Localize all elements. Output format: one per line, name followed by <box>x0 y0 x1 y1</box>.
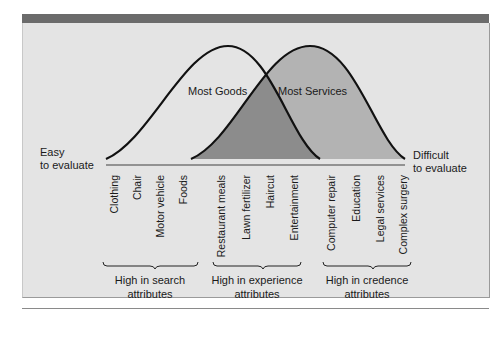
item-label: Foods <box>177 175 189 232</box>
item-label: Restaurant meals <box>215 175 227 262</box>
group-line1: High in search <box>90 273 210 287</box>
group-search-label: High in search attributes <box>90 273 210 301</box>
item-label: Entertainment <box>288 175 300 252</box>
item-label: Legal services <box>374 175 386 252</box>
group-experience-label: High in experience attributes <box>197 273 317 301</box>
difficult-line1: Difficult <box>413 149 467 162</box>
item-label: Lawn fertilizer <box>240 175 252 252</box>
item-label: Complex surgery <box>397 175 409 262</box>
easy-label: Easy to evaluate <box>40 146 94 172</box>
group-credence-label: High in credence attributes <box>307 273 427 301</box>
item-label: Motor vehicle <box>154 175 166 252</box>
brace-search <box>103 262 198 269</box>
group-line2: attributes <box>197 287 317 301</box>
easy-line2: to evaluate <box>40 159 94 172</box>
most-services-label: Most Services <box>278 85 347 97</box>
item-label: Computer repair <box>325 175 337 262</box>
brace-experience <box>213 262 301 269</box>
item-label: Clothing <box>108 175 120 232</box>
group-line2: attributes <box>90 287 210 301</box>
brace-credence <box>323 262 411 269</box>
difficult-line2: to evaluate <box>413 162 467 175</box>
item-label: Chair <box>131 175 143 232</box>
group-line1: High in credence <box>307 273 427 287</box>
difficult-label: Difficult to evaluate <box>413 149 467 175</box>
item-label: Haircut <box>264 175 276 232</box>
group-line2: attributes <box>307 287 427 301</box>
item-label: Education <box>350 175 362 232</box>
most-goods-label: Most Goods <box>188 85 247 97</box>
easy-line1: Easy <box>40 146 94 159</box>
group-line1: High in experience <box>197 273 317 287</box>
